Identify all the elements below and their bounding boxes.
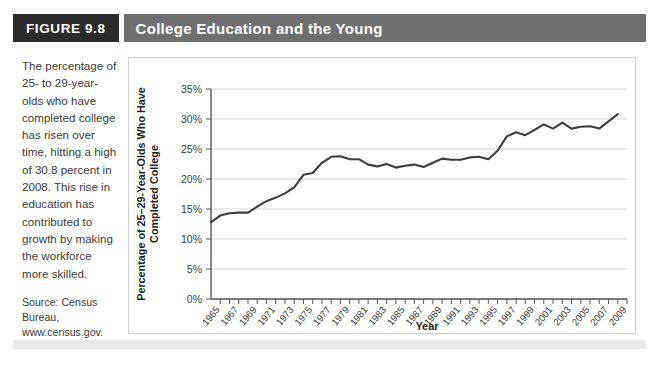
- y-tick-label: 30%: [181, 113, 202, 125]
- x-tick-label: 1967: [218, 304, 240, 327]
- x-tick-label: 1965: [200, 304, 222, 327]
- figure-header: FIGURE 9.8 College Education and the You…: [13, 14, 646, 42]
- x-tick-label: 1993: [458, 304, 480, 327]
- x-tick-label: 1983: [366, 304, 388, 327]
- x-tick-label: 2001: [532, 304, 554, 327]
- figure-number-tag: FIGURE 9.8: [13, 14, 119, 42]
- x-tick-label: 2003: [551, 304, 573, 327]
- x-axis-tick-labels: 1965196719691971197319751977197919811983…: [200, 304, 629, 327]
- figure-root: FIGURE 9.8 College Education and the You…: [0, 0, 659, 369]
- y-axis-ticks: [206, 89, 211, 299]
- x-tick-label: 2009: [606, 304, 628, 327]
- figure-caption: The percentage of 25- to 29-year-olds wh…: [22, 57, 118, 340]
- x-tick-label: 1979: [329, 304, 351, 327]
- y-tick-label: 20%: [181, 173, 202, 185]
- figure-title: College Education and the Young: [124, 14, 646, 42]
- x-tick-label: 1991: [440, 304, 462, 327]
- x-tick-label: 1999: [514, 304, 536, 327]
- figure-bottom-strip: [13, 340, 646, 349]
- x-tick-label: 1973: [274, 304, 296, 327]
- x-tick-label: 1975: [292, 304, 314, 327]
- figure-body: The percentage of 25- to 29-year-olds wh…: [13, 48, 646, 340]
- x-tick-label: 2007: [588, 304, 610, 327]
- x-tick-label: 1969: [237, 304, 259, 327]
- data-line: [211, 114, 618, 222]
- chart-gridlines: [211, 89, 627, 299]
- x-tick-label: 1977: [311, 304, 333, 327]
- data-series-line: [211, 114, 618, 222]
- y-tick-label: 0%: [187, 293, 202, 305]
- y-tick-label: 25%: [181, 143, 202, 155]
- x-tick-label: 2005: [569, 304, 591, 327]
- chart-panel: 0%5%10%15%20%25%30%35% 19651967196919711…: [128, 57, 636, 334]
- y-tick-label: 10%: [181, 233, 202, 245]
- y-axis-tick-labels: 0%5%10%15%20%25%30%35%: [181, 83, 202, 305]
- x-tick-label: 1981: [348, 304, 370, 327]
- line-chart: 0%5%10%15%20%25%30%35% 19651967196919711…: [129, 58, 635, 333]
- y-tick-label: 35%: [181, 83, 202, 95]
- x-tick-label: 1997: [495, 304, 517, 327]
- x-axis-title: Year: [415, 320, 439, 332]
- x-axis-ticks: [220, 299, 627, 304]
- x-tick-label: 1971: [255, 304, 277, 327]
- caption-body: The percentage of 25- to 29-year-olds wh…: [22, 57, 118, 282]
- y-tick-label: 5%: [187, 263, 202, 275]
- y-tick-label: 15%: [181, 203, 202, 215]
- x-tick-label: 1985: [385, 304, 407, 327]
- y-axis-title: Percentage of 25–29-Year-Olds Who HaveCo…: [135, 87, 160, 301]
- caption-source: Source: Census Bureau, www.census.gov.: [22, 295, 118, 340]
- x-tick-label: 1995: [477, 304, 499, 327]
